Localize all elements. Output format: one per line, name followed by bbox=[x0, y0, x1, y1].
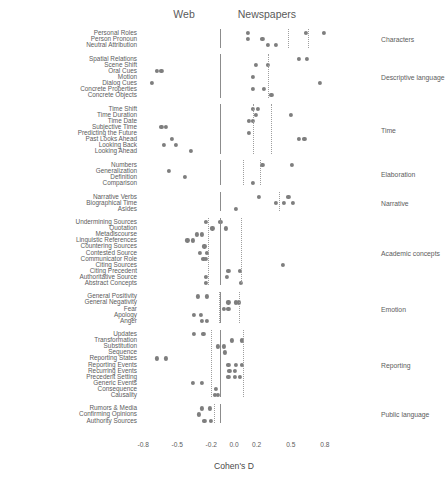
dotted-reference-line bbox=[214, 404, 215, 423]
data-point bbox=[185, 238, 189, 242]
data-point bbox=[226, 306, 230, 310]
row-label: Concrete Objects bbox=[88, 92, 137, 98]
group-separator-line bbox=[220, 160, 221, 185]
data-point bbox=[224, 226, 228, 230]
group-separator-line bbox=[220, 104, 221, 153]
data-point bbox=[260, 37, 264, 41]
dotted-reference-line bbox=[241, 218, 242, 286]
data-point bbox=[274, 43, 278, 47]
data-point bbox=[162, 143, 166, 147]
data-point bbox=[167, 169, 171, 173]
data-point bbox=[234, 362, 238, 366]
data-point bbox=[226, 362, 230, 366]
data-point bbox=[164, 125, 168, 129]
x-tick-label: 0.0 bbox=[229, 441, 238, 448]
group-label: Descriptive language bbox=[381, 73, 444, 80]
data-point bbox=[257, 194, 261, 198]
data-point bbox=[200, 381, 204, 385]
row-label: Abstract Concepts bbox=[85, 280, 137, 286]
data-point bbox=[210, 226, 214, 230]
group-separator-line bbox=[220, 218, 221, 286]
row-label: Asides bbox=[118, 205, 137, 211]
data-point bbox=[256, 107, 260, 111]
data-point bbox=[196, 294, 200, 298]
dotted-reference-line bbox=[243, 160, 244, 185]
data-point bbox=[223, 350, 227, 354]
data-point bbox=[205, 294, 209, 298]
data-point bbox=[200, 406, 204, 410]
dotted-reference-line bbox=[239, 292, 240, 323]
data-point bbox=[318, 81, 322, 85]
data-point bbox=[159, 69, 163, 73]
data-point bbox=[266, 43, 270, 47]
group-separator-line bbox=[220, 292, 221, 323]
x-tick-label: 0.8 bbox=[320, 441, 329, 448]
x-axis-title: Cohen's D bbox=[214, 461, 254, 471]
data-point bbox=[269, 93, 273, 97]
dotted-reference-line bbox=[260, 160, 261, 185]
row-label: Causality bbox=[111, 392, 137, 398]
data-point bbox=[164, 356, 168, 360]
data-point bbox=[251, 75, 255, 79]
dotted-reference-line bbox=[308, 29, 309, 48]
data-point bbox=[194, 232, 198, 236]
row-label: Authority Sources bbox=[87, 417, 137, 423]
dotted-reference-line bbox=[279, 192, 280, 211]
data-point bbox=[233, 375, 237, 379]
data-point bbox=[202, 418, 206, 422]
data-point bbox=[289, 113, 293, 117]
data-point bbox=[282, 200, 286, 204]
data-point bbox=[286, 194, 290, 198]
data-point bbox=[169, 137, 173, 141]
data-point bbox=[199, 312, 203, 316]
data-point bbox=[192, 332, 196, 336]
data-point bbox=[246, 37, 250, 41]
dotted-reference-line bbox=[211, 330, 212, 398]
data-point bbox=[246, 31, 250, 35]
data-point bbox=[214, 387, 218, 391]
x-tick-label: -0.2 bbox=[206, 441, 217, 448]
data-point bbox=[291, 200, 295, 204]
group-label: Time bbox=[381, 126, 396, 133]
x-tick-label: 0.5 bbox=[286, 441, 295, 448]
data-point bbox=[238, 375, 242, 379]
x-tick-label: -0.5 bbox=[172, 441, 183, 448]
dotted-reference-line bbox=[243, 330, 244, 398]
data-point bbox=[233, 368, 237, 372]
data-point bbox=[234, 207, 238, 211]
data-point bbox=[205, 319, 209, 323]
row-label: Anger bbox=[120, 317, 137, 323]
data-point bbox=[251, 181, 255, 185]
data-point bbox=[226, 300, 230, 304]
data-point bbox=[253, 63, 257, 67]
data-point bbox=[226, 375, 230, 379]
data-point bbox=[225, 275, 229, 279]
data-point bbox=[302, 137, 306, 141]
panel-title-newspapers: Newspapers bbox=[238, 8, 296, 20]
data-point bbox=[155, 69, 159, 73]
group-label: Public language bbox=[381, 411, 429, 418]
group-separator-line bbox=[220, 54, 221, 97]
data-point bbox=[251, 87, 255, 91]
dotted-reference-line bbox=[271, 104, 272, 153]
row-label: Looking Ahead bbox=[95, 148, 137, 154]
data-point bbox=[202, 244, 206, 248]
data-point bbox=[183, 175, 187, 179]
group-separator-line bbox=[220, 192, 221, 211]
data-point bbox=[191, 238, 195, 242]
group-separator-line bbox=[220, 404, 221, 423]
data-point bbox=[230, 338, 234, 342]
x-tick-label: 0.2 bbox=[252, 441, 261, 448]
data-point bbox=[208, 406, 212, 410]
data-point bbox=[189, 149, 193, 153]
data-point bbox=[155, 356, 159, 360]
dotted-reference-line bbox=[268, 54, 269, 97]
data-point bbox=[197, 412, 201, 416]
group-label: Narrative bbox=[381, 199, 409, 206]
data-point bbox=[191, 381, 195, 385]
dotted-reference-line bbox=[253, 104, 254, 153]
data-point bbox=[261, 87, 265, 91]
data-point bbox=[200, 232, 204, 236]
data-point bbox=[174, 143, 178, 147]
group-label: Characters bbox=[381, 36, 414, 43]
